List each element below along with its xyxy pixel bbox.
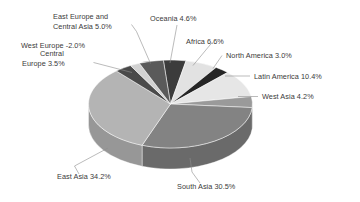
label-oceania: Oceania 4.6% [150, 14, 197, 23]
label-central-europe-line1: Central [40, 49, 64, 58]
pie-slices-group: Oceania 4.6%Africa 6.6%North America 3.0… [88, 60, 252, 148]
label-east-europe-central-asia-line1: East Europe and [53, 12, 108, 21]
label-central-europe-line2: Europe 3.5% [22, 59, 65, 68]
pie-chart-figure: Oceania 4.6%Africa 6.6%North America 3.0… [0, 0, 360, 202]
label-north-america: North America 3.0% [226, 51, 292, 60]
label-latin-america: Latin America 10.4% [254, 72, 322, 81]
label-africa: Africa 6.6% [186, 37, 224, 46]
label-east-europe-central-asia-line2: Central Asia 5.0% [53, 22, 112, 31]
pie-chart-canvas: Oceania 4.6%Africa 6.6%North America 3.0… [0, 0, 360, 202]
label-east-asia: East Asia 34.2% [57, 172, 111, 181]
label-south-asia: South Asia 30.5% [177, 182, 236, 191]
label-west-asia: West Asia 4.2% [262, 92, 314, 101]
